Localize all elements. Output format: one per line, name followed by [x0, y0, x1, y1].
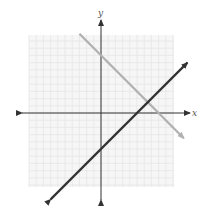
- coordinate-plane: x y: [0, 0, 205, 212]
- x-axis-label: x: [192, 108, 197, 118]
- y-axis-label: y: [97, 8, 104, 18]
